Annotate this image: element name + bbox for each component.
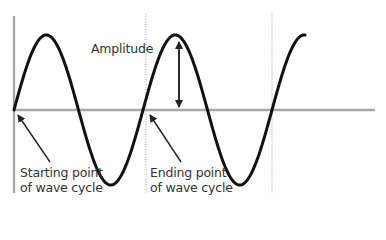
ending-point-label-line2: of wave cycle [150, 181, 233, 195]
ending-point-label-line1: Ending point [150, 166, 227, 180]
amplitude-label: Amplitude [91, 42, 153, 56]
end-point-pointer-arrow [150, 115, 181, 162]
starting-point-label-line1: Starting point [20, 166, 103, 180]
starting-point-label-line2: of wave cycle [20, 181, 103, 195]
start-point-pointer-arrow [18, 115, 50, 162]
